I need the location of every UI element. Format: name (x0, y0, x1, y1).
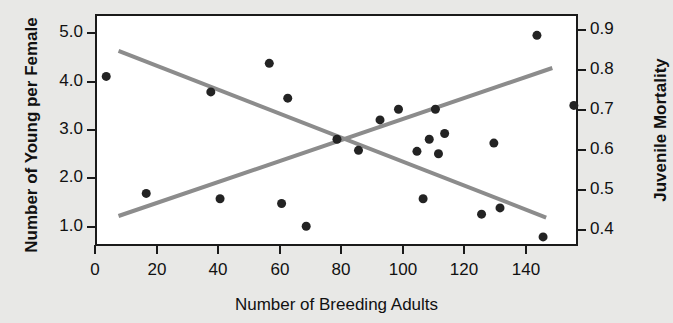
data-point (440, 129, 449, 138)
data-point (354, 146, 363, 155)
y-tick-label-right: 0.4 (590, 219, 634, 239)
x-tick-label: 40 (193, 260, 243, 280)
y-tick-label-right: 0.7 (590, 99, 634, 119)
data-point (302, 222, 311, 231)
x-tick-label: 0 (70, 260, 120, 280)
y-tick-label-left: 5.0 (39, 22, 83, 42)
y-tick-label-right: 0.8 (590, 59, 634, 79)
data-point (477, 210, 486, 219)
data-point (539, 232, 548, 241)
plot-area (95, 14, 578, 246)
y-tick-label-left: 4.0 (39, 71, 83, 91)
data-point (434, 149, 443, 158)
data-point (569, 101, 578, 110)
data-points-group (102, 31, 579, 242)
data-point (425, 135, 434, 144)
x-axis-title: Number of Breeding Adults (95, 295, 578, 315)
plot-canvas (97, 16, 580, 248)
data-point (206, 87, 215, 96)
data-point (283, 94, 292, 103)
y-tick-label-right: 0.5 (590, 179, 634, 199)
y-tick-label-right: 0.6 (590, 139, 634, 159)
y-tick-label-right: 0.9 (590, 19, 634, 39)
data-point (376, 115, 385, 124)
y-tick-label-left: 1.0 (39, 216, 83, 236)
data-point (277, 199, 286, 208)
x-tick-mark (94, 245, 96, 254)
data-point (412, 147, 421, 156)
data-point (532, 31, 541, 40)
scatter-plot-figure: Number of Young per Female Juvenile Mort… (0, 0, 673, 323)
data-point (489, 139, 498, 148)
trendlines-group (119, 51, 553, 218)
y-tick-label-left: 3.0 (39, 119, 83, 139)
x-tick-label: 20 (132, 260, 182, 280)
x-tick-label: 120 (439, 260, 489, 280)
x-tick-label: 100 (378, 260, 428, 280)
data-point (419, 194, 428, 203)
data-point (142, 189, 151, 198)
data-point (496, 203, 505, 212)
x-tick-label: 80 (316, 260, 366, 280)
x-tick-label: 140 (501, 260, 551, 280)
data-point (431, 105, 440, 114)
y-tick-label-left: 2.0 (39, 167, 83, 187)
data-point (332, 135, 341, 144)
data-point (265, 59, 274, 68)
data-point (394, 105, 403, 114)
data-point (102, 72, 111, 81)
x-tick-label: 60 (255, 260, 305, 280)
data-point (216, 194, 225, 203)
y-axis-right-title: Juvenile Mortality (651, 5, 671, 255)
